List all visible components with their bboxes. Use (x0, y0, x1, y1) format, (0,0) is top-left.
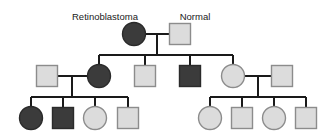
pedigree-symbol-female-affected[interactable] (88, 65, 111, 88)
label-normal: Normal (180, 11, 211, 22)
label-layer: RetinoblastomaNormal (72, 11, 210, 22)
pedigree-diagram: RetinoblastomaNormal (0, 0, 322, 136)
pedigree-symbol-female-unaffected[interactable] (84, 107, 107, 130)
pedigree-symbol-male-affected[interactable] (53, 108, 74, 129)
pedigree-symbol-male-unaffected[interactable] (135, 66, 156, 87)
pedigree-symbol-male-unaffected[interactable] (232, 108, 253, 129)
pedigree-symbol-male-unaffected[interactable] (118, 108, 139, 129)
pedigree-canvas: RetinoblastomaNormal (0, 0, 322, 136)
pedigree-symbol-female-affected[interactable] (123, 23, 146, 46)
pedigree-symbol-male-unaffected[interactable] (296, 108, 317, 129)
pedigree-symbol-male-unaffected[interactable] (272, 66, 293, 87)
pedigree-symbol-male-affected[interactable] (180, 66, 201, 87)
pedigree-symbol-female-unaffected[interactable] (199, 107, 222, 130)
pedigree-symbol-female-affected[interactable] (20, 107, 43, 130)
label-retinoblastoma: Retinoblastoma (72, 11, 139, 22)
pedigree-symbol-male-unaffected[interactable] (170, 24, 191, 45)
pedigree-symbol-female-unaffected[interactable] (263, 107, 286, 130)
connector-layer (31, 34, 306, 107)
pedigree-symbol-female-unaffected[interactable] (222, 65, 245, 88)
pedigree-symbol-male-unaffected[interactable] (37, 66, 58, 87)
